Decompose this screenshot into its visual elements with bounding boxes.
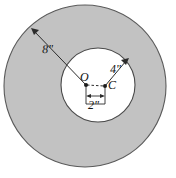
radius-8-label: 8" [42, 43, 53, 55]
circle-diagram-svg [0, 0, 176, 178]
shaded-annulus-region [0, 0, 176, 178]
radius-4-label: 4" [110, 63, 122, 76]
point-O-label: O [80, 71, 89, 83]
geometry-figure: 8" 4" 2" O C [0, 0, 176, 178]
shaded-annulus-group [0, 0, 176, 178]
center-offset-label: 2" [88, 99, 99, 111]
point-C-label: C [108, 79, 116, 91]
